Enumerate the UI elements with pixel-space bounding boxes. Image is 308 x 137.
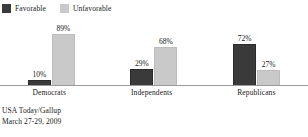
legend-label-unfavorable: Unfavorable bbox=[73, 4, 112, 13]
legend-swatch-light-icon bbox=[60, 4, 69, 13]
bar-value-independents-unfavorable: 68% bbox=[159, 37, 173, 46]
bar-group-republicans: 72% 27% bbox=[233, 17, 280, 86]
bar-wrap-democrats-favorable: 10% bbox=[28, 17, 51, 86]
bar-wrap-democrats-unfavorable: 89% bbox=[52, 17, 75, 86]
bar-independents-unfavorable bbox=[154, 47, 177, 86]
x-tick-label-republicans: Republicans bbox=[237, 88, 275, 98]
bar-value-independents-favorable: 29% bbox=[135, 59, 149, 68]
source-line-date: March 27-29, 2009 bbox=[2, 116, 61, 127]
plot-area: 10% 89% 29% 68% bbox=[0, 17, 308, 86]
bar-value-republicans-favorable: 72% bbox=[238, 34, 252, 43]
bar-wrap-republicans-favorable: 72% bbox=[233, 17, 256, 86]
bar-value-democrats-favorable: 10% bbox=[32, 70, 46, 79]
x-tick-label-independents: Independents bbox=[131, 88, 172, 98]
legend-item-favorable: Favorable bbox=[2, 4, 46, 13]
x-axis-baseline bbox=[0, 85, 308, 86]
x-axis-tick-labels: Democrats Independents Republicans bbox=[0, 88, 308, 99]
x-tick-label-democrats: Democrats bbox=[33, 88, 66, 98]
legend-item-unfavorable: Unfavorable bbox=[60, 4, 112, 13]
bar-value-democrats-unfavorable: 89% bbox=[56, 24, 70, 33]
bar-groups: 10% 89% 29% 68% bbox=[0, 17, 308, 86]
bar-democrats-unfavorable bbox=[52, 34, 75, 86]
bar-wrap-republicans-unfavorable: 27% bbox=[257, 17, 280, 86]
bar-chart: Favorable Unfavorable 10% 89% bbox=[0, 0, 308, 137]
bar-republicans-favorable bbox=[233, 44, 256, 86]
legend-label-favorable: Favorable bbox=[15, 4, 46, 13]
bar-wrap-independents-favorable: 29% bbox=[130, 17, 153, 86]
bar-wrap-independents-unfavorable: 68% bbox=[154, 17, 177, 86]
legend-swatch-dark-icon bbox=[2, 4, 11, 13]
bar-independents-favorable bbox=[130, 69, 153, 86]
bar-group-democrats: 10% 89% bbox=[28, 17, 75, 86]
bar-republicans-unfavorable bbox=[257, 70, 280, 86]
source-note: USA Today/Gallup March 27-29, 2009 bbox=[2, 105, 61, 127]
bar-group-independents: 29% 68% bbox=[130, 17, 177, 86]
source-line-organization: USA Today/Gallup bbox=[2, 105, 61, 116]
bar-value-republicans-unfavorable: 27% bbox=[262, 60, 276, 69]
chart-legend: Favorable Unfavorable bbox=[2, 2, 111, 14]
